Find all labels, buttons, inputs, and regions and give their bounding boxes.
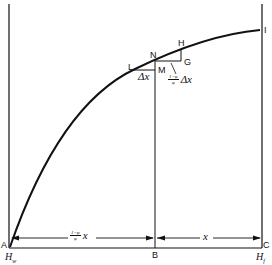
right-span-label: x: [203, 231, 208, 242]
left-span-fraction: 1−φ φ: [70, 230, 81, 241]
left-span-denominator: φ: [73, 236, 78, 241]
diagram-canvas: [0, 0, 272, 265]
delta-x-label: Δx: [138, 71, 149, 82]
point-label-C: C: [263, 241, 270, 250]
point-label-N: N: [150, 51, 157, 60]
axis-label-Hw-sub: w: [12, 258, 16, 264]
arrowhead-left-B: [146, 236, 154, 241]
arrowhead-right-C: [253, 236, 261, 241]
axis-label-Hw: Hw: [5, 252, 16, 264]
point-label-G: G: [184, 58, 191, 67]
slope-fraction: 1−φ φ: [168, 74, 179, 85]
point-label-L: L: [128, 63, 133, 72]
axis-label-Hf: Hf: [256, 252, 265, 264]
left-span-variable: x: [83, 229, 88, 241]
axis-label-Hf-sub: f: [263, 258, 265, 264]
left-span-label: 1−φ φ x: [70, 229, 88, 241]
point-label-B: B: [152, 251, 158, 260]
slope-variable: Δx: [181, 73, 192, 85]
arrowhead-right-B: [157, 236, 165, 241]
slope-fraction-denominator: φ: [171, 80, 176, 85]
point-label-A: A: [1, 241, 7, 250]
graph-diagram: A B C I N H G L M Hw Hf Δx 1−φ φ Δx 1−φ …: [0, 0, 272, 265]
point-label-I: I: [264, 26, 267, 35]
curve-A-to-I: [10, 30, 260, 247]
point-label-M: M: [158, 66, 166, 75]
point-label-H: H: [178, 39, 185, 48]
slope-label: 1−φ φ Δx: [168, 73, 192, 85]
